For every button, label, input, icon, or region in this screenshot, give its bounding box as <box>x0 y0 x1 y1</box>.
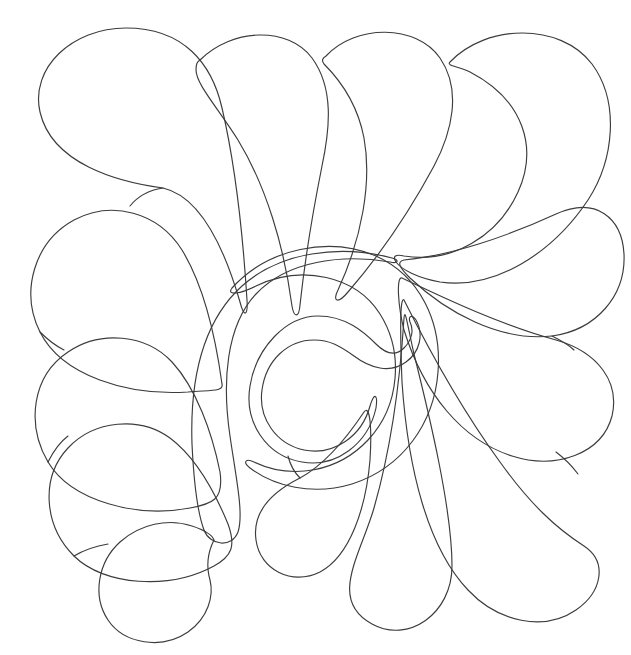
paper-background <box>0 0 631 655</box>
feather-plume-artwork <box>0 0 631 655</box>
drawing-canvas <box>0 0 631 655</box>
